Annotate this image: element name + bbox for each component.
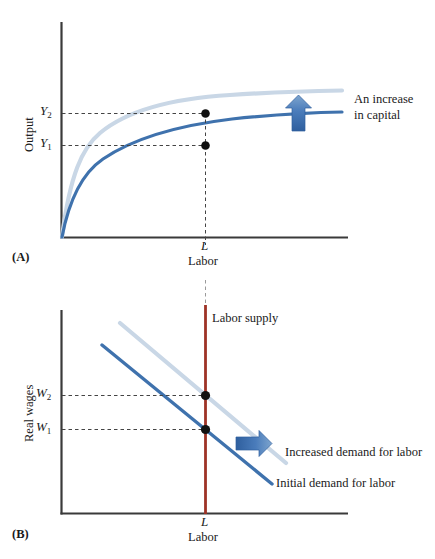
panel-b-point-w2: [201, 391, 210, 400]
panel-b-point-w1: [201, 425, 210, 434]
panel-b-xtick-l: L: [201, 515, 208, 530]
panel-a-annotation-line1: An increase: [354, 92, 413, 106]
panel-b-xlabel: Labor: [188, 530, 218, 544]
panel-a-point-y2: [201, 109, 210, 118]
panel-a-ylabel: Output: [22, 117, 37, 152]
panel-a-xlabel: Labor: [188, 254, 218, 268]
panel-b: Real wages W2 W1 L Labor Labor supply In…: [0, 280, 435, 559]
panel-a-plot: [0, 0, 435, 280]
panel-a-xtick-l: L: [201, 239, 208, 254]
panel-b-initial-demand-label: Initial demand for labor: [276, 476, 395, 490]
economics-figure: Output Y2 Y1 L Labor An increase in capi…: [0, 0, 435, 559]
panel-b-supply-label: Labor supply: [212, 311, 278, 325]
panel-a-point-y1: [201, 141, 210, 150]
panel-a-ytick-y1: Y1: [40, 136, 52, 151]
panel-b-tag: (B): [12, 527, 29, 541]
panel-b-ylabel: Real wages: [22, 385, 37, 442]
panel-a-annotation-line2: in capital: [354, 108, 400, 122]
panel-b-ytick-w1: W1: [36, 420, 51, 435]
panel-b-initial-demand-line: [102, 345, 272, 484]
panel-b-increased-demand-label: Increased demand for labor: [285, 445, 422, 459]
panel-b-ytick-w2: W2: [36, 386, 51, 401]
panel-a-tag: (A): [12, 250, 29, 264]
panel-a-ytick-y2: Y2: [40, 104, 52, 119]
